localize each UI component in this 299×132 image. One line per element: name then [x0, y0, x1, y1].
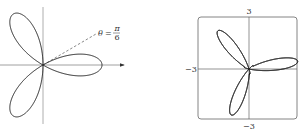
- flower-curve: [217, 30, 298, 115]
- y-min-label: −3: [243, 122, 255, 131]
- fraction-denominator: 6: [115, 33, 120, 42]
- equals-sign: =: [105, 29, 112, 38]
- theta-symbol: θ: [98, 29, 103, 38]
- theta-label: θ = π 6: [98, 24, 121, 42]
- left-figure: θ = π 6: [0, 7, 124, 124]
- x-min-label: −3: [185, 65, 197, 74]
- right-figure: 3 −3 −3: [185, 7, 298, 131]
- y-max-label: 3: [247, 7, 252, 16]
- theta-ray: [43, 34, 96, 65]
- viewing-window-frame: [198, 17, 297, 119]
- figure-canvas: θ = π 6 3 −3 −3: [0, 0, 299, 132]
